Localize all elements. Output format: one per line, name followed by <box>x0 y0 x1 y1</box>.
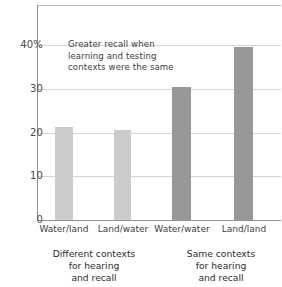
chart-annotation: Greater recall when learning and testing… <box>68 39 174 74</box>
group-label-line-2: for hearing <box>160 260 282 272</box>
group-label-different-contexts: Different contexts for hearing and recal… <box>30 248 158 284</box>
bar-land-water <box>114 130 131 220</box>
bar-water-land <box>55 127 73 220</box>
group-label-line-2: for hearing <box>30 260 158 272</box>
annotation-line-2: learning and testing <box>68 51 174 63</box>
bar-land-land <box>234 47 253 220</box>
group-label-line-3: and recall <box>30 272 158 284</box>
group-label-same-contexts: Same contexts for hearing and recall <box>160 248 282 284</box>
group-label-line-3: and recall <box>160 272 282 284</box>
bar-chart: 010203040% Greater recall when learning … <box>0 0 282 287</box>
annotation-line-1: Greater recall when <box>68 39 174 51</box>
bar-water-water <box>172 87 191 220</box>
annotation-line-3: contexts were the same <box>68 62 174 74</box>
category-label-land-land: Land/land <box>208 224 280 235</box>
group-label-line-1: Different contexts <box>30 248 158 260</box>
group-label-line-1: Same contexts <box>160 248 282 260</box>
